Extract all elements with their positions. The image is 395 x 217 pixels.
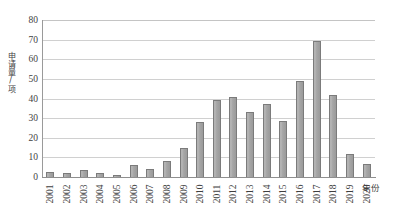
bar-slot <box>258 20 275 177</box>
bar[interactable] <box>279 121 287 177</box>
y-axis-tick-label: 20 <box>14 133 38 143</box>
bar-slot <box>142 20 159 177</box>
bar-slot <box>59 20 76 177</box>
bar-slot <box>325 20 342 177</box>
bar[interactable] <box>180 148 188 177</box>
bars-container <box>42 20 375 177</box>
y-axis-tick-label: 60 <box>14 54 38 64</box>
bar-slot <box>292 20 309 177</box>
bar-slot <box>175 20 192 177</box>
x-axis-tick-label: 2003 <box>77 178 91 214</box>
bar-slot <box>92 20 109 177</box>
bar-slot <box>192 20 209 177</box>
bar[interactable] <box>113 175 121 177</box>
x-axis-tick-label: 2010 <box>193 178 207 214</box>
y-axis-tick-label: 40 <box>14 94 38 104</box>
x-axis-tick-label: 2004 <box>93 178 107 214</box>
bar[interactable] <box>80 170 88 177</box>
bar[interactable] <box>296 81 304 177</box>
y-axis-tick-labels: 01020304050607080 <box>14 0 40 217</box>
bar-slot <box>225 20 242 177</box>
x-axis-tick-label: 2014 <box>260 178 274 214</box>
x-axis-tick-label: 2019 <box>343 178 357 214</box>
bar-slot <box>159 20 176 177</box>
bar-slot <box>242 20 259 177</box>
bar-chart: 申请量/项 01020304050607080 2001200220032004… <box>0 0 395 217</box>
x-axis-tick-label: 2009 <box>177 178 191 214</box>
x-axis-tick-label: 2007 <box>143 178 157 214</box>
y-axis-tick-label: 70 <box>14 35 38 45</box>
y-axis-tick-label: 10 <box>14 152 38 162</box>
bar-slot <box>342 20 359 177</box>
bar-slot <box>209 20 226 177</box>
bar[interactable] <box>229 97 237 177</box>
x-axis-tick-label: 2008 <box>160 178 174 214</box>
bar[interactable] <box>163 161 171 177</box>
bar[interactable] <box>263 104 271 177</box>
bar[interactable] <box>96 173 104 177</box>
x-axis-tick-label: 2002 <box>60 178 74 214</box>
x-axis-tick-label: 2001 <box>43 178 57 214</box>
bar-slot <box>358 20 375 177</box>
y-axis-tick-label: 80 <box>14 15 38 25</box>
bar[interactable] <box>130 165 138 177</box>
bar[interactable] <box>313 41 321 177</box>
bar[interactable] <box>346 154 354 177</box>
bar[interactable] <box>196 122 204 177</box>
bar-slot <box>125 20 142 177</box>
bar[interactable] <box>363 164 371 177</box>
x-axis-tick-label: 2015 <box>276 178 290 214</box>
y-axis-tick-label: 50 <box>14 74 38 84</box>
x-axis-title: 年份 <box>362 183 380 193</box>
x-axis-tick-label: 2006 <box>127 178 141 214</box>
bar[interactable] <box>63 173 71 177</box>
bar-slot <box>42 20 59 177</box>
bar[interactable] <box>329 95 337 177</box>
x-axis-tick-label: 2013 <box>243 178 257 214</box>
x-axis-tick-label: 2018 <box>326 178 340 214</box>
bar-slot <box>308 20 325 177</box>
bar-slot <box>75 20 92 177</box>
y-axis-tick-label: 0 <box>14 172 38 182</box>
x-axis-tick-label: 2016 <box>293 178 307 214</box>
x-axis-tick-label: 2005 <box>110 178 124 214</box>
bar[interactable] <box>146 169 154 177</box>
y-axis-tick-label: 30 <box>14 113 38 123</box>
x-axis-tick-labels: 2001200220032004200520062007200820092010… <box>42 178 375 217</box>
x-axis-tick-label: 2017 <box>310 178 324 214</box>
bar[interactable] <box>246 112 254 177</box>
bar[interactable] <box>46 172 54 177</box>
x-axis-tick-label: 2012 <box>226 178 240 214</box>
x-axis-tick-label: 2011 <box>210 178 224 214</box>
bar-slot <box>109 20 126 177</box>
bar[interactable] <box>213 100 221 177</box>
bar-slot <box>275 20 292 177</box>
